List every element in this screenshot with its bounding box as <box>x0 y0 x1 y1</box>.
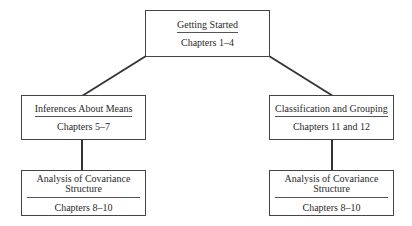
node-title: Inferences About Means <box>35 103 133 117</box>
node-chapters: Chapters 1–4 <box>181 37 234 48</box>
node-title-line-1: Analysis of Covariance <box>37 174 131 184</box>
node-title: Classification and Grouping <box>275 103 388 117</box>
node-analysis-of-covariance-right: Analysis of Covariance Structure Chapter… <box>269 170 394 216</box>
node-chapters: Chapters 8–10 <box>302 202 360 213</box>
edge-root-to-right-mid <box>269 56 333 96</box>
node-title-line-2: Structure <box>285 184 379 194</box>
node-analysis-of-covariance-left: Analysis of Covariance Structure Chapter… <box>21 170 146 216</box>
node-chapters: Chapters 8–10 <box>54 202 112 213</box>
node-title-line-2: Structure <box>37 184 131 194</box>
node-title: Analysis of Covariance Structure <box>275 174 389 198</box>
node-inferences-about-means: Inferences About Means Chapters 5–7 <box>21 95 146 140</box>
node-title: Analysis of Covariance Structure <box>27 174 141 198</box>
node-classification-and-grouping: Classification and Grouping Chapters 11 … <box>269 95 394 140</box>
node-getting-started: Getting Started Chapters 1–4 <box>145 10 270 57</box>
edge-root-to-left-mid <box>82 56 146 96</box>
node-chapters: Chapters 11 and 12 <box>293 121 370 132</box>
node-title-line-1: Analysis of Covariance <box>285 174 379 184</box>
node-chapters: Chapters 5–7 <box>57 121 110 132</box>
node-title: Getting Started <box>177 19 238 33</box>
